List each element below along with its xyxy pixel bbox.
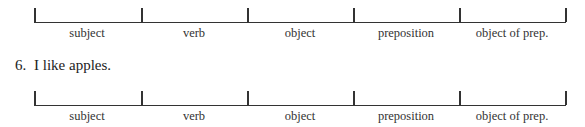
sentence-number: 6.	[15, 57, 26, 73]
label-subject: subject	[34, 26, 140, 41]
label-verb: verb	[141, 109, 247, 124]
label-object-of-prep: object of prep.	[459, 26, 565, 41]
label-preposition: preposition	[353, 109, 459, 124]
diagram-tick	[141, 8, 143, 22]
diagram-baseline	[34, 105, 566, 106]
diagram-tick	[34, 8, 36, 22]
diagram-tick	[247, 91, 249, 105]
label-subject: subject	[34, 109, 140, 124]
label-preposition: preposition	[353, 26, 459, 41]
sentence-diagram-1: subject verb object preposition object o…	[0, 0, 585, 40]
sentence-text: I like apples.	[34, 57, 111, 73]
diagram-tick	[141, 91, 143, 105]
label-object: object	[247, 109, 353, 124]
diagram-tick	[247, 8, 249, 22]
diagram-tick	[353, 91, 355, 105]
sentence-diagram-2: subject verb object preposition object o…	[0, 83, 585, 123]
diagram-tick	[459, 8, 461, 22]
label-verb: verb	[141, 26, 247, 41]
label-object: object	[247, 26, 353, 41]
diagram-tick	[459, 91, 461, 105]
sentence-item: 6. I like apples.	[15, 57, 111, 74]
diagram-baseline	[34, 22, 566, 23]
diagram-tick	[34, 91, 36, 105]
label-object-of-prep: object of prep.	[459, 109, 565, 124]
diagram-tick	[565, 91, 567, 105]
diagram-tick	[565, 8, 567, 22]
diagram-tick	[353, 8, 355, 22]
